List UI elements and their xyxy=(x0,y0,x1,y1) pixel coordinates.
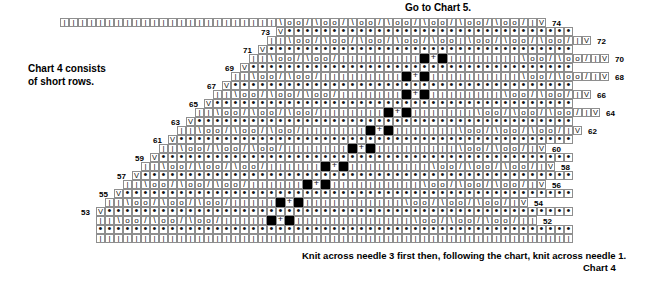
yarn-over-cell: o xyxy=(303,108,312,117)
purl-cell: • xyxy=(447,225,456,234)
knit-cell: | xyxy=(474,72,483,81)
purl-cell: • xyxy=(564,135,573,144)
purl-cell: • xyxy=(501,225,510,234)
purl-cell: • xyxy=(366,117,375,126)
purl-cell: • xyxy=(564,45,573,54)
purl-cell: • xyxy=(267,135,276,144)
k2tog-cell: / xyxy=(447,180,456,189)
purl-cell: • xyxy=(438,63,447,72)
ssk-cell: \ xyxy=(456,126,465,135)
knitting-instruction-note: Knit across needle 3 first then, followi… xyxy=(302,250,626,262)
purl-cell: • xyxy=(555,63,564,72)
ssk-cell: \ xyxy=(555,54,564,63)
yarn-over-cell: o xyxy=(519,162,528,171)
purl-cell: • xyxy=(384,45,393,54)
purl-cell: • xyxy=(321,189,330,198)
knit-cell: | xyxy=(564,126,573,135)
purl-cell: • xyxy=(195,135,204,144)
yarn-over-cell: o xyxy=(411,36,420,45)
purl-cell: • xyxy=(339,63,348,72)
purl-cell: • xyxy=(510,207,519,216)
purl-cell: • xyxy=(366,81,375,90)
k2tog-cell: / xyxy=(501,108,510,117)
cross-cell: + xyxy=(411,72,420,81)
purl-cell: • xyxy=(294,99,303,108)
knit-cell: | xyxy=(420,162,429,171)
purl-cell: • xyxy=(357,207,366,216)
purl-cell: • xyxy=(420,153,429,162)
knit-cell: | xyxy=(240,234,249,243)
purl-cell: • xyxy=(312,207,321,216)
purl-cell: • xyxy=(321,225,330,234)
knit-cell: | xyxy=(294,216,303,225)
purl-cell: • xyxy=(501,81,510,90)
purl-cell: • xyxy=(492,63,501,72)
purl-cell: • xyxy=(555,45,564,54)
knit-cell: | xyxy=(312,144,321,153)
purl-cell: • xyxy=(501,27,510,36)
purl-cell: • xyxy=(267,99,276,108)
knit-cell: | xyxy=(159,18,168,27)
purl-cell: • xyxy=(537,225,546,234)
knit-cell: | xyxy=(366,180,375,189)
purl-cell: • xyxy=(474,99,483,108)
purl-cell: • xyxy=(321,81,330,90)
no-stitch-cell xyxy=(339,162,348,171)
purl-cell: • xyxy=(294,225,303,234)
purl-cell: • xyxy=(276,99,285,108)
k2tog-cell: / xyxy=(330,54,339,63)
purl-cell: • xyxy=(528,45,537,54)
purl-cell: • xyxy=(177,135,186,144)
ssk-cell: \ xyxy=(186,216,195,225)
knit-cell: | xyxy=(438,126,447,135)
purl-cell: • xyxy=(150,171,159,180)
knit-cell: | xyxy=(330,108,339,117)
yarn-over-cell: o xyxy=(240,162,249,171)
purl-cell: • xyxy=(438,135,447,144)
purl-cell: • xyxy=(492,99,501,108)
knit-cell: | xyxy=(429,90,438,99)
purl-cell: • xyxy=(303,153,312,162)
knit-cell: | xyxy=(375,90,384,99)
yarn-over-cell: o xyxy=(330,36,339,45)
knit-cell: | xyxy=(339,144,348,153)
purl-cell: • xyxy=(105,225,114,234)
yarn-over-cell: o xyxy=(240,126,249,135)
k2tog-cell: / xyxy=(186,198,195,207)
knit-cell: | xyxy=(60,18,69,27)
purl-cell: • xyxy=(492,27,501,36)
knit-cell: | xyxy=(483,54,492,63)
knit-cell: | xyxy=(258,54,267,63)
purl-cell: • xyxy=(384,171,393,180)
knit-cell: | xyxy=(330,216,339,225)
knit-cell: | xyxy=(375,162,384,171)
purl-cell: • xyxy=(465,27,474,36)
purl-cell: • xyxy=(231,189,240,198)
purl-cell: • xyxy=(429,63,438,72)
ssk-cell: \ xyxy=(492,144,501,153)
knit-cell: | xyxy=(483,234,492,243)
cross-cell: + xyxy=(357,144,366,153)
knit-cell: | xyxy=(411,180,420,189)
purl-cell: • xyxy=(456,207,465,216)
k2tog-cell: / xyxy=(258,90,267,99)
purl-cell: • xyxy=(411,81,420,90)
knit-cell: | xyxy=(330,144,339,153)
purl-cell: • xyxy=(492,45,501,54)
purl-cell: • xyxy=(195,207,204,216)
purl-cell: • xyxy=(231,81,240,90)
ssk-cell: \ xyxy=(348,18,357,27)
purl-cell: • xyxy=(312,99,321,108)
k2tog-cell: / xyxy=(294,54,303,63)
yarn-over-cell: o xyxy=(357,18,366,27)
knit-cell: | xyxy=(213,90,222,99)
purl-cell: • xyxy=(276,207,285,216)
knit-cell: | xyxy=(375,234,384,243)
purl-cell: • xyxy=(546,135,555,144)
k2tog-cell: / xyxy=(150,198,159,207)
knit-cell: | xyxy=(195,108,204,117)
purl-cell: • xyxy=(447,45,456,54)
yarn-over-cell: o xyxy=(519,90,528,99)
purl-cell: • xyxy=(141,189,150,198)
row-number-62: 62 xyxy=(588,127,597,136)
